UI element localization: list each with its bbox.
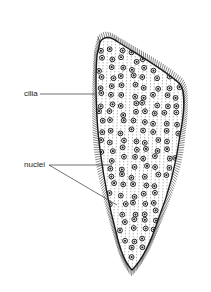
- organism-diagram: [0, 0, 211, 292]
- cell-outline: [96, 38, 184, 271]
- cilia-label: cilia: [24, 90, 38, 98]
- nuclei-label: nuclei: [24, 161, 45, 169]
